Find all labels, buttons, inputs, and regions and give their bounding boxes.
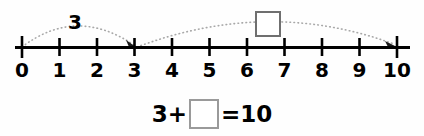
tick-label-7: 7	[278, 60, 292, 80]
tick-label-2: 2	[90, 60, 104, 80]
tick-label-3: 3	[128, 60, 142, 80]
unknown-addend-box-in-equation[interactable]	[189, 99, 219, 129]
number-line-worksheet: 3 0 1 2 3 4 5 6 7 8 9 10 3 + = 10	[0, 0, 424, 136]
equation: 3 + = 10	[0, 94, 424, 134]
unknown-addend-box-on-line[interactable]	[255, 11, 281, 37]
tick-label-10: 10	[383, 60, 411, 80]
tick-label-1: 1	[53, 60, 67, 80]
tick-label-0: 0	[15, 60, 29, 80]
equation-sum: 10	[240, 103, 272, 126]
tick-label-9: 9	[353, 60, 367, 80]
tick-label-6: 6	[240, 60, 254, 80]
jump-label-first: 3	[68, 12, 82, 32]
equation-first-addend: 3	[152, 103, 168, 126]
tick-label-4: 4	[165, 60, 179, 80]
tick-label-8: 8	[315, 60, 329, 80]
equals-sign: =	[221, 103, 240, 126]
plus-sign: +	[168, 103, 187, 126]
tick-label-5: 5	[203, 60, 217, 80]
